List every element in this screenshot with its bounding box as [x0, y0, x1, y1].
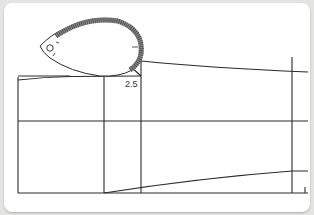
measurement-label: 2.5 — [125, 79, 138, 89]
hole-icon — [47, 45, 53, 51]
hem-slant-line — [104, 171, 308, 193]
tape-measure-loop — [40, 18, 142, 76]
pattern-diagram: 2.5 — [0, 0, 314, 215]
top-edge-line — [18, 76, 141, 80]
shoulder-curve-line — [141, 61, 308, 72]
